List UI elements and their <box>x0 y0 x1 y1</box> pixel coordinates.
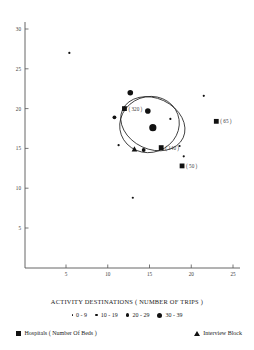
scatter-chart-figure: 51015202530 510152025 ( 320 )( 140 )( 50… <box>0 0 254 350</box>
legend-size-classes: 0 - 910 - 1920 - 2930 - 39 <box>0 312 254 318</box>
svg-text:5: 5 <box>65 271 68 277</box>
svg-text:25: 25 <box>230 271 236 277</box>
axis-lines <box>25 22 240 268</box>
svg-text:( 320 ): ( 320 ) <box>128 106 142 113</box>
legend-size-entry-4: 30 - 39 <box>157 312 182 318</box>
svg-text:20: 20 <box>16 106 22 112</box>
svg-text:10: 10 <box>16 185 22 191</box>
legend-interview-label: Interview Block <box>203 330 242 336</box>
legend-hospitals-label: Hospitals ( Number Of Beds ) <box>25 330 97 336</box>
svg-text:15: 15 <box>16 145 22 151</box>
circle-icon <box>126 313 130 317</box>
legend-entry-hospitals: Hospitals ( Number Of Beds ) <box>16 330 97 336</box>
legend-size-entry-1: 0 - 9 <box>72 312 88 318</box>
hospital-bed-labels: ( 320 )( 140 )( 50 )( 65 ) <box>128 106 231 170</box>
svg-text:20: 20 <box>189 271 195 277</box>
svg-text:10: 10 <box>105 271 111 277</box>
legend-size-entry-2: 10 - 19 <box>95 312 118 318</box>
svg-text:15: 15 <box>147 271 153 277</box>
circle-icon <box>157 313 162 318</box>
legend-marker-types: Hospitals ( Number Of Beds ) Interview B… <box>16 330 242 336</box>
legend-title: ACTIVITY DESTINATIONS ( NUMBER OF TRIPS … <box>0 298 254 305</box>
legend-size-entry-3: 20 - 29 <box>126 312 150 318</box>
legend-size-label: 20 - 29 <box>132 312 149 318</box>
legend-size-label: 0 - 9 <box>76 312 87 318</box>
legend-size-label: 30 - 39 <box>165 312 182 318</box>
legend-size-label: 10 - 19 <box>101 312 118 318</box>
svg-text:( 140 ): ( 140 ) <box>165 145 179 152</box>
svg-text:30: 30 <box>16 26 22 32</box>
x-axis-ticks: 510152025 <box>65 265 236 278</box>
circle-icon <box>95 314 98 317</box>
svg-text:( 50 ): ( 50 ) <box>186 163 198 170</box>
data-points <box>68 52 218 199</box>
svg-text:25: 25 <box>16 66 22 72</box>
triangle-icon <box>194 331 200 336</box>
square-icon <box>16 331 21 336</box>
svg-text:( 65 ): ( 65 ) <box>220 118 232 125</box>
confidence-ellipses <box>112 87 194 161</box>
circle-icon <box>72 314 74 316</box>
y-axis-ticks: 51015202530 <box>16 26 29 231</box>
legend-entry-interview-block: Interview Block <box>194 330 242 336</box>
svg-text:5: 5 <box>18 225 21 231</box>
